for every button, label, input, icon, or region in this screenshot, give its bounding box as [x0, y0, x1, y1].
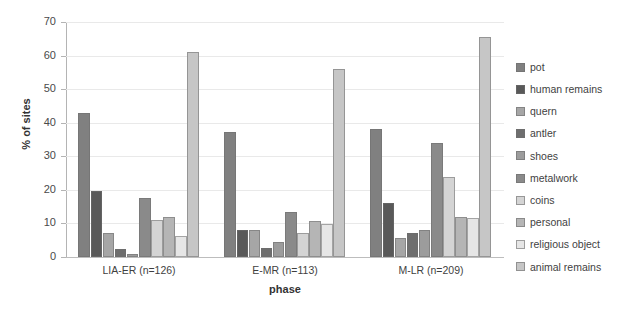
bar [151, 220, 163, 257]
x-tick-label: LIA-ER (n=126) [66, 264, 212, 276]
bar [383, 203, 395, 257]
legend-label: animal remains [530, 262, 601, 273]
bar [443, 177, 455, 257]
legend-swatch-icon [516, 107, 525, 116]
legend-swatch-icon [516, 262, 525, 271]
legend-item[interactable]: religious object [516, 234, 640, 256]
legend-label: personal [530, 217, 570, 228]
y-tick-label: 0 [16, 251, 56, 262]
bar-group [66, 22, 212, 257]
legend-swatch-icon [516, 129, 525, 138]
legend-label: religious object [530, 239, 600, 250]
legend-swatch-icon [516, 174, 525, 183]
bar [455, 217, 467, 257]
legend-label: shoes [530, 151, 558, 162]
bar [139, 198, 151, 257]
bar [175, 236, 187, 257]
legend-item[interactable]: shoes [516, 145, 640, 167]
bar [395, 238, 407, 257]
bar [431, 143, 443, 257]
legend-label: coins [530, 195, 555, 206]
legend-swatch-icon [516, 85, 525, 94]
chart-legend: pothuman remainsquernantlershoesmetalwor… [516, 56, 640, 278]
bar-group [358, 22, 504, 257]
legend-label: human remains [530, 84, 602, 95]
legend-item[interactable]: quern [516, 100, 640, 122]
bar-group [212, 22, 358, 257]
plot-area [66, 22, 504, 257]
y-tick-label: 10 [16, 217, 56, 228]
bar [479, 37, 491, 257]
legend-label: antler [530, 128, 556, 139]
bar [78, 113, 90, 257]
bar [115, 249, 127, 257]
y-tick-label: 20 [16, 184, 56, 195]
legend-item[interactable]: pot [516, 56, 640, 78]
bar [261, 248, 273, 257]
bar [333, 69, 345, 257]
y-tick-label: 40 [16, 117, 56, 128]
legend-item[interactable]: metalwork [516, 167, 640, 189]
y-tick-label: 70 [16, 16, 56, 27]
bar [467, 218, 479, 257]
x-axis-title: phase [66, 283, 504, 295]
bar [370, 129, 382, 257]
bar [285, 212, 297, 257]
legend-swatch-icon [516, 63, 525, 72]
legend-swatch-icon [516, 240, 525, 249]
legend-label: metalwork [530, 173, 578, 184]
legend-swatch-icon [516, 196, 525, 205]
y-tick-label: 50 [16, 83, 56, 94]
bar [237, 230, 249, 257]
bar [224, 132, 236, 257]
bar [163, 217, 175, 257]
bar [249, 230, 261, 257]
bar [127, 254, 139, 257]
y-tick-label: 30 [16, 150, 56, 161]
legend-swatch-icon [516, 218, 525, 227]
legend-item[interactable]: antler [516, 123, 640, 145]
bar [91, 191, 103, 257]
bar [273, 242, 285, 257]
bar [321, 224, 333, 257]
bar [187, 52, 199, 257]
x-tick-label: E-MR (n=113) [212, 264, 358, 276]
legend-item[interactable]: personal [516, 211, 640, 233]
legend-item[interactable]: coins [516, 189, 640, 211]
legend-label: quern [530, 106, 557, 117]
legend-item[interactable]: animal remains [516, 256, 640, 278]
x-tick-label: M-LR (n=209) [358, 264, 504, 276]
bar [309, 221, 321, 257]
bar [419, 230, 431, 257]
legend-label: pot [530, 62, 545, 73]
bar [297, 233, 309, 257]
legend-swatch-icon [516, 151, 525, 160]
gridline [66, 257, 504, 258]
bar-chart-figure: % of sites 010203040506070 LIA-ER (n=126… [0, 0, 640, 311]
legend-item[interactable]: human remains [516, 78, 640, 100]
bar [103, 233, 115, 257]
bar [407, 233, 419, 257]
y-tick-label: 60 [16, 50, 56, 61]
